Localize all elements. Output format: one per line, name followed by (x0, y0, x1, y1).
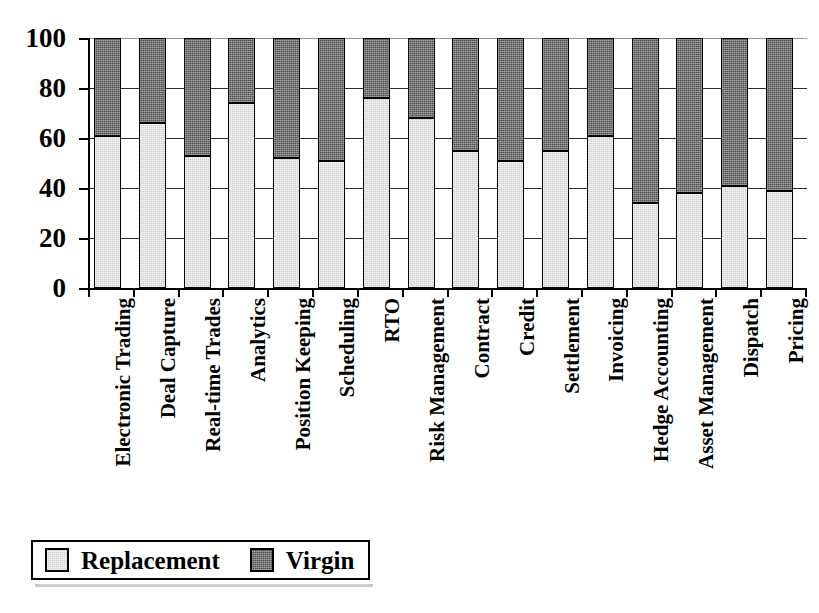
bar-segment-virgin (363, 38, 390, 98)
bar-column (542, 38, 569, 288)
bar-segment-virgin (94, 38, 121, 136)
x-axis-label-scheduling: Scheduling (337, 298, 358, 397)
legend-item: Replacement (45, 548, 220, 573)
x-axis-label-analytics: Analytics (248, 298, 269, 382)
bar-segment-replacement (497, 161, 524, 289)
x-axis-label-risk-management: Risk Management (427, 298, 448, 462)
x-axis-label-rto: RTO (382, 298, 403, 342)
x-tick (805, 288, 807, 297)
bar-segment-virgin (497, 38, 524, 161)
y-tick-20 (79, 238, 88, 240)
bar-segment-virgin (318, 38, 345, 161)
x-axis-ticks (88, 288, 805, 298)
y-tick-label-80: 80 (0, 75, 66, 102)
bar-segment-virgin (766, 38, 793, 191)
x-tick (715, 288, 717, 297)
x-tick (88, 288, 90, 297)
x-axis-label-asset-management: Asset Management (696, 298, 717, 469)
bar-column (363, 38, 390, 288)
x-axis-label-position-keeping: Position Keeping (293, 298, 314, 450)
x-axis-label-hedge-accounting: Hedge Accounting (651, 298, 672, 462)
y-tick-label-100: 100 (0, 25, 66, 52)
bar-segment-replacement (318, 161, 345, 289)
bar-column (94, 38, 121, 288)
x-axis-label-contract: Contract (472, 298, 493, 378)
bar-column (184, 38, 211, 288)
bar-segment-replacement (766, 191, 793, 289)
light-gray-swatch (45, 548, 69, 572)
bar-segment-replacement (94, 136, 121, 289)
bar-segment-replacement (587, 136, 614, 289)
bars-layer (90, 38, 807, 288)
bar-segment-virgin (542, 38, 569, 151)
bar-segment-replacement (184, 156, 211, 289)
bar-segment-replacement (676, 193, 703, 288)
bar-segment-virgin (721, 38, 748, 186)
x-tick (491, 288, 493, 297)
bar-segment-virgin (632, 38, 659, 203)
bar-column (721, 38, 748, 288)
bar-column (766, 38, 793, 288)
legend-label: Virgin (286, 548, 355, 573)
bar-column (587, 38, 614, 288)
x-tick (267, 288, 269, 297)
y-tick-label-60: 60 (0, 125, 66, 152)
x-tick (447, 288, 449, 297)
bar-column (228, 38, 255, 288)
legend-item: Virgin (250, 548, 355, 573)
x-tick (357, 288, 359, 297)
x-axis-label-real-time-trades: Real-time Trades (203, 298, 224, 452)
bar-segment-replacement (452, 151, 479, 289)
x-tick (626, 288, 628, 297)
x-tick (402, 288, 404, 297)
legend-shadow (35, 584, 373, 587)
y-tick-0 (79, 288, 88, 290)
bar-column (139, 38, 166, 288)
bar-segment-replacement (273, 158, 300, 288)
bar-segment-replacement (542, 151, 569, 289)
bar-segment-replacement (721, 186, 748, 289)
x-tick (178, 288, 180, 297)
bar-column (676, 38, 703, 288)
bar-segment-virgin (452, 38, 479, 151)
chart-legend: ReplacementVirgin (31, 540, 370, 580)
y-tick-80 (79, 88, 88, 90)
y-tick-40 (79, 188, 88, 190)
bar-column (632, 38, 659, 288)
bar-segment-virgin (676, 38, 703, 193)
y-tick-label-20: 20 (0, 225, 66, 252)
x-tick (671, 288, 673, 297)
x-tick (760, 288, 762, 297)
x-axis-label-settlement: Settlement (562, 298, 583, 394)
x-tick (536, 288, 538, 297)
bar-segment-virgin (228, 38, 255, 103)
bar-segment-virgin (587, 38, 614, 136)
y-tick-60 (79, 138, 88, 140)
stacked-bar-chart: 020406080100 Electronic TradingDeal Capt… (0, 0, 819, 613)
dark-gray-swatch (250, 548, 274, 572)
x-tick (581, 288, 583, 297)
x-axis-label-electronic-trading: Electronic Trading (113, 298, 134, 467)
x-axis-labels: Electronic TradingDeal CaptureReal-time … (88, 298, 805, 528)
bar-column (273, 38, 300, 288)
bar-segment-replacement (139, 123, 166, 288)
bar-segment-replacement (363, 98, 390, 288)
x-tick (312, 288, 314, 297)
bar-column (452, 38, 479, 288)
y-tick-100 (79, 38, 88, 40)
x-tick (222, 288, 224, 297)
x-axis-label-invoicing: Invoicing (606, 298, 627, 382)
bar-segment-replacement (228, 103, 255, 288)
y-tick-label-40: 40 (0, 175, 66, 202)
bar-column (408, 38, 435, 288)
bar-column (318, 38, 345, 288)
bar-segment-virgin (408, 38, 435, 118)
bar-segment-virgin (184, 38, 211, 156)
x-axis-label-credit: Credit (517, 298, 538, 356)
bar-segment-virgin (139, 38, 166, 123)
legend-label: Replacement (81, 548, 220, 573)
bar-segment-virgin (273, 38, 300, 158)
x-axis-label-pricing: Pricing (786, 298, 807, 363)
y-tick-label-0: 0 (0, 275, 66, 302)
plot-area (88, 38, 807, 290)
